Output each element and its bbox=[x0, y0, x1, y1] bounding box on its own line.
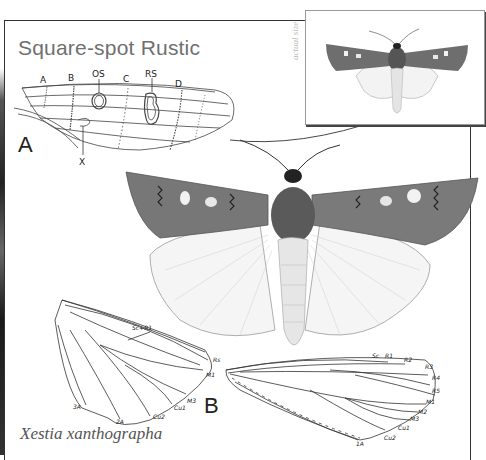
moth-illustration bbox=[126, 140, 478, 345]
thorax bbox=[271, 187, 315, 243]
label-r4: R4 bbox=[432, 374, 440, 381]
label-m1-hind: M1 bbox=[206, 371, 215, 378]
label-cu2-hind: Cu2 bbox=[153, 413, 165, 420]
left-reniform-spot bbox=[205, 197, 217, 207]
inset-moth bbox=[306, 11, 484, 124]
head bbox=[284, 169, 302, 183]
label-3a: 3A bbox=[73, 403, 81, 410]
label-m3-fore: M3 bbox=[410, 415, 419, 422]
label-cu2-fore: Cu2 bbox=[384, 434, 396, 441]
label-d: D bbox=[175, 79, 182, 89]
right-orbicular-spot bbox=[407, 189, 421, 203]
label-cu1-hind: Cu1 bbox=[174, 404, 186, 411]
label-r3: R3 bbox=[425, 363, 433, 370]
forewing-pattern-diagram bbox=[14, 78, 234, 155]
left-antenna bbox=[240, 140, 288, 170]
label-m2: M2 bbox=[418, 408, 427, 415]
label-a: A bbox=[40, 75, 47, 85]
right-reniform-spot bbox=[380, 196, 392, 206]
label-rs: RS bbox=[145, 69, 157, 79]
label-c: C bbox=[123, 74, 129, 84]
figure-a-letter: A bbox=[18, 132, 33, 158]
label-r2: R2 bbox=[404, 356, 412, 363]
label-sc: Sc bbox=[372, 352, 380, 359]
label-r5: R5 bbox=[432, 387, 440, 394]
actual-size-inset bbox=[305, 10, 485, 125]
label-cu1-fore: Cu1 bbox=[398, 424, 410, 431]
actual-size-label: actual size bbox=[290, 22, 300, 60]
label-m3-hind: M3 bbox=[187, 397, 196, 404]
abdomen bbox=[278, 238, 308, 346]
right-antenna bbox=[298, 145, 340, 170]
figure-b-letter: B bbox=[204, 393, 219, 419]
label-rs-hind: Rs bbox=[213, 356, 220, 363]
label-m1-fore: M1 bbox=[426, 398, 435, 405]
label-r1: R1 bbox=[385, 352, 393, 359]
label-os: OS bbox=[92, 69, 105, 79]
left-orbicular-spot bbox=[180, 191, 190, 205]
label-x: X bbox=[79, 157, 85, 167]
left-hindwing bbox=[150, 225, 275, 336]
label-1a: 1A bbox=[356, 440, 364, 447]
species-caption: Xestia xanthographa bbox=[20, 424, 162, 444]
left-forewing bbox=[126, 172, 268, 238]
label-sc-r1: Sc+R1 bbox=[132, 324, 152, 331]
label-b: B bbox=[68, 73, 74, 83]
